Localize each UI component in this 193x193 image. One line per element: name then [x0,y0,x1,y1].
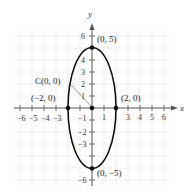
svg-text:3: 3 [81,68,85,77]
svg-text:−6: −6 [17,114,26,123]
svg-text:6: 6 [162,113,166,122]
label-top-vertex: (0, 5) [97,34,117,44]
svg-text:−3: −3 [53,114,62,123]
point-center [90,106,95,111]
ellipse-graph: x y −6 −5 −4 −3 −1 1 3 4 5 6 6 4 3 2 1 −… [0,0,193,193]
label-center: C(0, 0) [35,76,61,86]
svg-text:3: 3 [126,113,130,122]
svg-text:−6: −6 [78,176,87,185]
svg-text:2: 2 [81,80,85,89]
svg-text:5: 5 [150,113,154,122]
point-bottom-vertex [90,166,95,171]
svg-text:1: 1 [102,113,106,122]
svg-text:−4: −4 [41,114,50,123]
x-axis [14,105,178,111]
point-top-vertex [90,45,95,50]
svg-text:−2: −2 [78,128,87,137]
svg-text:4: 4 [81,56,85,65]
label-bottom-vertex: (0, −5) [97,168,122,178]
label-left-covertex: (−2, 0) [31,93,56,103]
point-right-covertex [114,106,119,111]
svg-text:−5: −5 [29,114,38,123]
x-axis-label: x [179,103,184,113]
svg-text:6: 6 [81,32,85,41]
svg-text:−3: −3 [78,140,87,149]
point-left-covertex [66,106,71,111]
label-right-covertex: (2, 0) [121,93,141,103]
svg-text:−1: −1 [78,114,87,123]
y-axis-label: y [87,9,92,19]
svg-text:4: 4 [138,113,142,122]
